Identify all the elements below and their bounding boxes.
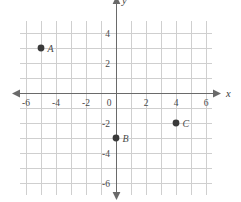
data-point-dot-c <box>173 120 180 127</box>
x-tick-label: -4 <box>52 98 60 108</box>
data-point-dot-b <box>113 135 120 142</box>
x-tick-label: 6 <box>204 98 209 108</box>
data-point-dot-a <box>38 45 45 52</box>
data-point-label-c: C <box>183 118 190 129</box>
x-axis-arrow-right <box>213 90 221 98</box>
data-point-label-a: A <box>47 43 55 54</box>
data-point-label-b: B <box>123 133 129 144</box>
x-tick-label: 2 <box>144 98 149 108</box>
x-axis-arrow-left <box>12 90 20 98</box>
coordinate-plane-figure: -6-4-2024642-2-4-6 xy ABC <box>0 0 241 202</box>
y-tick-label: -4 <box>102 149 110 159</box>
y-axis-name: y <box>121 0 127 6</box>
y-axis-arrow-up <box>113 0 121 4</box>
y-tick-label: 4 <box>105 29 110 39</box>
coordinate-plane-svg: -6-4-2024642-2-4-6 xy ABC <box>0 0 241 202</box>
x-tick-label: -2 <box>82 98 90 108</box>
y-axis-arrow-down <box>113 192 121 200</box>
x-tick-label: -6 <box>22 98 30 108</box>
y-tick-label: -6 <box>102 179 110 189</box>
y-tick-label: 2 <box>105 59 110 69</box>
y-tick-label: -2 <box>102 119 110 129</box>
x-tick-label: 4 <box>174 98 179 108</box>
axis-lines <box>12 0 221 200</box>
x-tick-label: 0 <box>107 98 112 108</box>
x-axis-name: x <box>225 88 231 99</box>
